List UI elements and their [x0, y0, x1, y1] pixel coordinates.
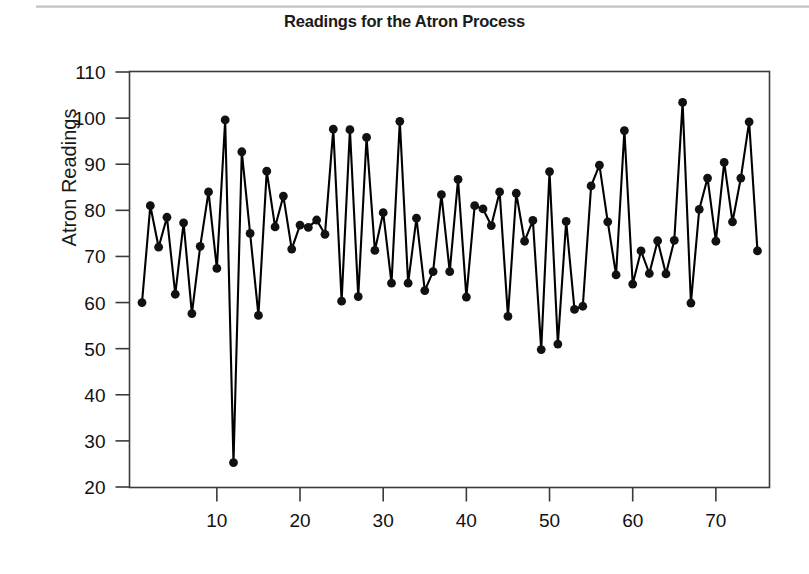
x-tick-label: 40: [456, 510, 477, 531]
x-tick-label: 10: [206, 510, 227, 531]
y-tick-label: 30: [84, 431, 105, 452]
data-point: [196, 242, 205, 251]
data-point: [587, 181, 596, 190]
x-tick-label: 70: [705, 510, 726, 531]
data-point: [362, 133, 371, 142]
x-tick-label: 20: [289, 510, 310, 531]
data-point: [653, 236, 662, 245]
data-point: [204, 187, 213, 196]
x-tick-label: 60: [622, 510, 643, 531]
data-point: [595, 161, 604, 170]
data-point: [387, 279, 396, 288]
y-tick-label: 110: [75, 62, 105, 83]
data-point: [354, 292, 363, 301]
data-point: [420, 286, 429, 295]
data-point: [562, 217, 571, 226]
y-tick-label: 50: [84, 339, 105, 360]
data-point: [578, 302, 587, 311]
data-point: [412, 214, 421, 223]
data-point: [662, 270, 671, 279]
data-point: [687, 299, 696, 308]
data-point: [429, 267, 438, 276]
data-point: [321, 230, 330, 239]
data-point: [711, 237, 720, 246]
data-point: [678, 98, 687, 107]
data-point: [346, 125, 355, 134]
data-point: [237, 147, 246, 156]
y-tick-label: 80: [84, 200, 105, 221]
data-point: [512, 189, 521, 198]
x-tick-label: 30: [373, 510, 394, 531]
data-point: [504, 312, 513, 321]
data-point: [637, 247, 646, 256]
data-point: [753, 247, 762, 256]
data-point: [379, 208, 388, 217]
data-point: [537, 345, 546, 354]
y-tick-label: 100: [74, 108, 106, 129]
data-point: [479, 205, 488, 214]
data-point: [553, 340, 562, 349]
data-point: [670, 236, 679, 245]
data-point: [462, 293, 471, 302]
data-point: [337, 297, 346, 306]
data-point: [221, 116, 230, 125]
data-point: [470, 201, 479, 210]
data-point: [437, 190, 446, 199]
data-point: [138, 298, 147, 307]
data-point: [720, 158, 729, 167]
data-point: [736, 174, 745, 183]
data-line-series: [142, 102, 757, 462]
data-point: [404, 279, 413, 288]
data-point: [279, 192, 288, 201]
data-point: [254, 311, 263, 320]
data-point: [612, 270, 621, 279]
data-point: [570, 305, 579, 314]
y-tick-label: 70: [84, 246, 105, 267]
y-tick-label: 40: [84, 385, 105, 406]
y-tick-label: 20: [84, 477, 105, 498]
data-point: [487, 221, 496, 230]
data-point: [296, 221, 305, 230]
data-point: [154, 243, 163, 252]
data-point: [603, 217, 612, 226]
data-point: [171, 290, 180, 299]
data-point: [304, 223, 313, 232]
data-point: [163, 213, 172, 222]
y-tick-label: 60: [84, 293, 105, 314]
line-chart-plot: 2030405060708090100110 10203040506070: [0, 0, 809, 574]
data-point: [246, 229, 255, 238]
data-point: [329, 125, 338, 134]
data-point: [495, 187, 504, 196]
data-point: [287, 245, 296, 254]
data-point: [312, 216, 321, 225]
data-point: [645, 269, 654, 278]
data-point: [370, 246, 379, 255]
data-point: [188, 309, 197, 318]
data-point: [728, 217, 737, 226]
data-point: [229, 458, 238, 467]
data-point: [212, 264, 221, 273]
data-point: [262, 167, 271, 176]
data-point: [620, 126, 629, 135]
data-point: [445, 267, 454, 276]
data-point: [454, 175, 463, 184]
y-tick-label: 90: [84, 154, 105, 175]
figure-page: Readings for the Atron Process Atron Rea…: [0, 0, 809, 574]
data-point: [745, 117, 754, 126]
data-point: [520, 237, 529, 246]
data-point: [695, 205, 704, 214]
data-point: [179, 218, 188, 227]
data-point: [395, 117, 404, 126]
data-point: [545, 167, 554, 176]
x-axis-ticks: 10203040506070: [206, 488, 726, 532]
y-axis-ticks: 2030405060708090100110: [74, 62, 130, 498]
data-point: [703, 174, 712, 183]
x-tick-label: 50: [539, 510, 560, 531]
data-point: [146, 201, 155, 210]
data-point: [271, 223, 280, 232]
data-point: [628, 280, 637, 289]
data-point: [529, 216, 538, 225]
